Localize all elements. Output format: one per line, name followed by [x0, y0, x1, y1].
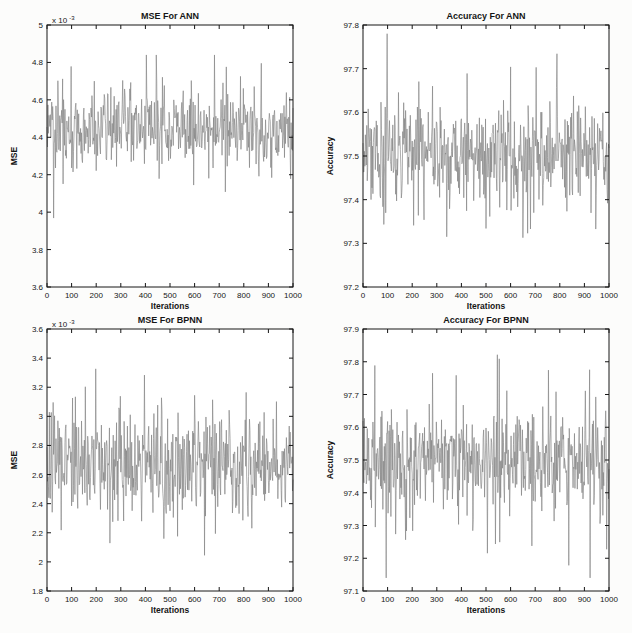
y-tick-label: 3.6 — [32, 325, 44, 334]
y-tick-label: 97.5 — [343, 152, 359, 161]
x-tick-label: 100 — [381, 291, 395, 300]
x-tick-label: 700 — [529, 291, 543, 300]
x-tick-label: 1000 — [284, 291, 302, 300]
x-tick-label: 200 — [406, 291, 420, 300]
x-tick-label: 0 — [45, 595, 50, 604]
y-tick-label: 97.7 — [343, 65, 359, 74]
x-tick-label: 700 — [529, 595, 543, 604]
chart-panel-mse-ann: 010020030040050060070080090010003.63.844… — [0, 0, 316, 316]
y-tick-label: 97.4 — [343, 196, 359, 205]
y-axis-exponent-label: x 10 -3 — [52, 15, 75, 25]
chart-panel-mse-bpnn: 010020030040050060070080090010001.822.22… — [0, 316, 316, 633]
chart-title: Accuracy For BPNN — [443, 316, 529, 325]
x-tick-label: 900 — [578, 291, 592, 300]
y-tick-label: 5 — [39, 21, 44, 30]
x-tick-label: 600 — [188, 291, 202, 300]
x-tick-label: 1000 — [600, 595, 618, 604]
x-tick-label: 700 — [213, 595, 227, 604]
x-tick-label: 800 — [237, 291, 251, 300]
y-tick-label: 97.2 — [343, 554, 359, 563]
y-tick-label: 4.8 — [32, 58, 44, 67]
y-tick-label: 97.3 — [343, 522, 359, 531]
x-axis-label: Iterations — [151, 301, 190, 311]
x-tick-label: 200 — [90, 291, 104, 300]
x-tick-label: 0 — [361, 291, 366, 300]
y-tick-label: 97.8 — [343, 21, 359, 30]
x-axis-label: Iterations — [467, 301, 506, 311]
x-tick-label: 500 — [479, 291, 493, 300]
y-tick-label: 97.8 — [343, 358, 359, 367]
y-tick-label: 97.3 — [343, 239, 359, 248]
x-tick-label: 500 — [163, 291, 177, 300]
y-tick-label: 97.6 — [343, 423, 359, 432]
y-tick-label: 2.8 — [32, 441, 44, 450]
y-tick-label: 97.4 — [343, 489, 359, 498]
x-tick-label: 100 — [65, 291, 79, 300]
y-tick-label: 4 — [39, 208, 44, 217]
y-tick-label: 97.9 — [343, 325, 359, 334]
chart-panel-accuracy-bpnn: 0100200300400500600700800900100097.197.2… — [316, 316, 632, 633]
x-tick-label: 600 — [188, 595, 202, 604]
x-axis-label: Iterations — [467, 605, 506, 615]
x-tick-label: 800 — [237, 595, 251, 604]
y-tick-label: 3.8 — [32, 246, 44, 255]
x-tick-label: 100 — [381, 595, 395, 604]
y-axis-exponent-label: x 10 -3 — [52, 319, 75, 329]
x-tick-label: 400 — [139, 595, 153, 604]
x-axis-label: Iterations — [151, 605, 190, 615]
x-tick-label: 1000 — [284, 595, 302, 604]
y-tick-label: 4.4 — [32, 133, 44, 142]
chart-title: MSE For ANN — [141, 11, 199, 21]
x-tick-label: 0 — [45, 291, 50, 300]
chart-grid: 010020030040050060070080090010003.63.844… — [0, 0, 632, 633]
y-axis-label: MSE — [9, 146, 19, 165]
x-tick-label: 500 — [479, 595, 493, 604]
chart-panel-accuracy-ann: 0100200300400500600700800900100097.297.3… — [316, 0, 632, 316]
x-tick-label: 200 — [406, 595, 420, 604]
y-tick-label: 1.8 — [32, 587, 44, 596]
x-tick-label: 0 — [361, 595, 366, 604]
x-tick-label: 600 — [504, 291, 518, 300]
y-tick-label: 97.7 — [343, 391, 359, 400]
y-tick-label: 97.2 — [343, 283, 359, 292]
x-tick-label: 400 — [455, 291, 469, 300]
chart-mse-bpnn: 010020030040050060070080090010001.822.22… — [0, 316, 316, 633]
x-tick-label: 300 — [114, 595, 128, 604]
x-tick-label: 300 — [114, 291, 128, 300]
x-tick-label: 100 — [65, 595, 79, 604]
x-tick-label: 200 — [90, 595, 104, 604]
y-axis-label: MSE — [9, 450, 19, 469]
y-tick-label: 2.2 — [32, 529, 44, 538]
y-tick-label: 2 — [39, 558, 44, 567]
chart-accuracy-ann: 0100200300400500600700800900100097.297.3… — [316, 0, 632, 316]
x-tick-label: 1000 — [600, 291, 618, 300]
y-tick-label: 4.2 — [32, 171, 44, 180]
figure-page: 010020030040050060070080090010003.63.844… — [0, 0, 632, 633]
y-axis-label: Accuracy — [325, 441, 335, 480]
y-tick-label: 2.6 — [32, 471, 44, 480]
y-tick-label: 3.6 — [32, 283, 44, 292]
y-tick-label: 3 — [39, 412, 44, 421]
y-tick-label: 3.2 — [32, 383, 44, 392]
y-tick-label: 97.6 — [343, 108, 359, 117]
x-tick-label: 700 — [213, 291, 227, 300]
chart-accuracy-bpnn: 0100200300400500600700800900100097.197.2… — [316, 316, 632, 633]
chart-title: MSE For BPNN — [138, 316, 203, 325]
x-tick-label: 400 — [455, 595, 469, 604]
y-tick-label: 3.4 — [32, 354, 44, 363]
x-tick-label: 500 — [163, 595, 177, 604]
x-tick-label: 400 — [139, 291, 153, 300]
x-tick-label: 900 — [262, 595, 276, 604]
y-tick-label: 97.5 — [343, 456, 359, 465]
x-tick-label: 800 — [553, 595, 567, 604]
x-tick-label: 800 — [553, 291, 567, 300]
x-tick-label: 900 — [578, 595, 592, 604]
chart-title: Accuracy For ANN — [446, 11, 525, 21]
y-tick-label: 97.1 — [343, 587, 359, 596]
y-tick-label: 4.6 — [32, 96, 44, 105]
x-tick-label: 300 — [430, 291, 444, 300]
y-axis-label: Accuracy — [325, 137, 335, 176]
x-tick-label: 300 — [430, 595, 444, 604]
x-tick-label: 600 — [504, 595, 518, 604]
y-tick-label: 2.4 — [32, 500, 44, 509]
